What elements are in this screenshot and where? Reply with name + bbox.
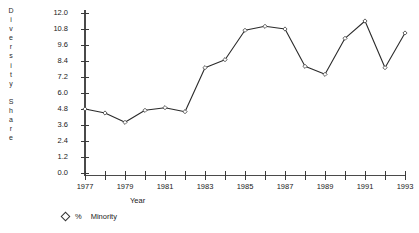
data-point-marker [203,66,207,70]
diamond-marker-icon [61,212,71,222]
series-line [85,21,405,122]
plot-area: 12.010.89.68.47.26.04.83.62.41.20.0 1977… [0,0,419,233]
data-point-marker [323,72,327,76]
data-point-marker [263,24,267,28]
data-series-minority [0,0,419,233]
data-point-marker [283,27,287,31]
legend-label: Minority [91,212,117,221]
data-point-marker [103,111,107,115]
legend-symbol: % [75,212,82,221]
series-markers [83,19,407,125]
data-point-marker [83,107,87,111]
data-point-marker [303,64,307,68]
legend: % Minority [62,212,117,221]
data-point-marker [183,110,187,114]
diversity-share-line-chart: Diversity Share 12.010.89.68.47.26.04.83… [0,0,419,233]
data-point-marker [163,106,167,110]
